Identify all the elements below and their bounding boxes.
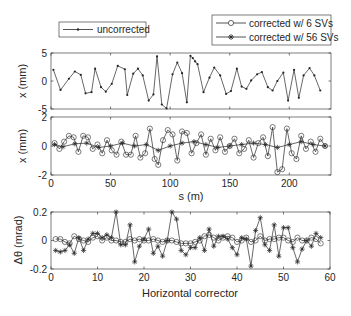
x-tick-label: 0 xyxy=(48,178,54,189)
y-tick-label: -0.2 xyxy=(30,264,48,275)
legend-label-56svs: corrected w/ 56 SVs xyxy=(249,32,338,43)
circle-marker-icon xyxy=(228,20,233,25)
x-tick-label: 150 xyxy=(221,178,238,189)
dot-marker-icon xyxy=(77,28,79,30)
x-tick-label: 50 xyxy=(105,178,117,189)
y-tick-label: 0 xyxy=(41,76,47,87)
x-tick-label: 30 xyxy=(185,272,197,283)
x-tick-label: 60 xyxy=(324,272,336,283)
middle-axes: 050100150200-202 x (mm) s (m) xyxy=(16,112,331,203)
middle-xlabel: s (m) xyxy=(178,190,203,202)
y-tick-label: 2 xyxy=(41,112,47,123)
x-tick-label: 20 xyxy=(138,272,150,283)
legend-label-uncorrected: uncorrected xyxy=(97,24,150,35)
y-tick-label: 0.2 xyxy=(33,207,47,218)
x-tick-label: 100 xyxy=(162,178,179,189)
y-tick-label: 5 xyxy=(41,48,47,59)
y-tick-label: -2 xyxy=(38,170,47,181)
x-tick-label: 200 xyxy=(281,178,298,189)
y-tick-label: 0 xyxy=(41,141,47,152)
middle-ylabel: x (mm) xyxy=(16,129,28,163)
top-axes: -505 x (mm) xyxy=(16,48,331,115)
legend-label-6svs: corrected w/ 6 SVs xyxy=(249,18,333,29)
legend-uncorrected: uncorrected xyxy=(59,22,150,37)
x-tick-label: 50 xyxy=(278,272,290,283)
x-tick-label: 10 xyxy=(92,272,104,283)
legend-corrected: corrected w/ 6 SVs corrected w/ 56 SVs xyxy=(212,15,338,45)
y-tick-label: 0 xyxy=(41,235,47,246)
bottom-axes: 0102030405060-0.200.2 Δθ (mrad) Horizont… xyxy=(12,207,336,300)
bottom-xlabel: Horizontal corrector xyxy=(142,287,238,299)
top-ylabel: x (mm) xyxy=(16,64,28,98)
x-tick-label: 40 xyxy=(231,272,243,283)
figure: uncorrected corrected w/ 6 SVs corrected… xyxy=(0,0,351,316)
x-tick-label: 0 xyxy=(48,272,54,283)
bottom-ylabel: Δθ (mrad) xyxy=(12,216,24,265)
